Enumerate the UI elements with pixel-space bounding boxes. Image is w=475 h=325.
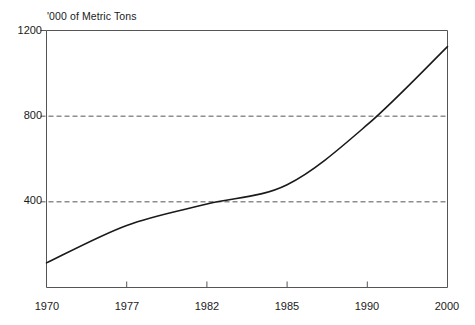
- y-tick-label-800: 800: [4, 109, 42, 121]
- y-tick-label-400: 400: [4, 194, 42, 206]
- axis-unit-title: '000 of Metric Tons: [47, 10, 137, 22]
- x-tick-label-1990: 1990: [341, 300, 393, 312]
- gridlines: [41, 116, 448, 202]
- axis-spines: [47, 31, 448, 288]
- line-chart-plot: [0, 0, 475, 325]
- x-tick-label-1977: 1977: [101, 300, 153, 312]
- x-tick-label-2000: 2000: [421, 300, 473, 312]
- x-tick-marks: [127, 282, 368, 288]
- chart-container: '000 of Metric Tons 1200 800 400 1970 19…: [0, 0, 475, 325]
- y-tick-label-1200: 1200: [4, 24, 42, 36]
- x-tick-label-1985: 1985: [261, 300, 313, 312]
- series-line-production: [47, 47, 448, 263]
- x-tick-label-1970: 1970: [21, 300, 73, 312]
- x-tick-label-1982: 1982: [181, 300, 233, 312]
